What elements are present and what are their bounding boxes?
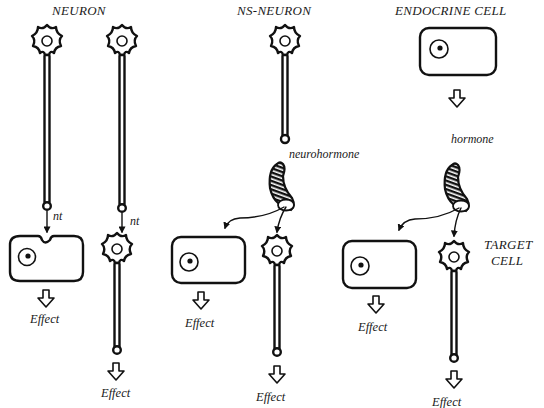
effect-label-5: Effect <box>357 320 388 334</box>
effect-arrow-3 <box>193 292 209 309</box>
effect-arrow-6 <box>446 371 462 388</box>
endocrine-cell <box>420 28 496 75</box>
signalling-diagram: NEURON NS-NEURON ENDOCRINE CELL nt Effec… <box>0 0 544 408</box>
target-cell-1 <box>10 236 83 281</box>
effect-label-1: Effect <box>29 312 60 326</box>
effect-label-2: Effect <box>100 386 131 400</box>
release-arrow-cell-2 <box>225 207 284 228</box>
ns-neuron <box>270 25 300 143</box>
heading-endocrine-cell: ENDOCRINE CELL <box>394 3 506 18</box>
gland-2 <box>270 163 294 211</box>
effect-arrow-5 <box>368 296 384 313</box>
target-neuron-3 <box>439 241 469 362</box>
effect-arrow-1 <box>38 290 54 307</box>
effect-arrow-2 <box>108 363 124 380</box>
target-neuron-2 <box>262 235 292 356</box>
neuron-1 <box>32 25 62 210</box>
target-cell-2 <box>172 237 245 283</box>
nt-label-1: nt <box>53 209 63 223</box>
nt-label-2: nt <box>130 214 140 228</box>
hormone-arrow <box>449 90 465 107</box>
effect-label-3: Effect <box>184 316 215 330</box>
effect-arrow-4 <box>269 366 285 383</box>
neurohormone-label: neurohormone <box>289 147 360 161</box>
target-cell-3 <box>343 241 416 288</box>
target-cell-label-line1: TARGET <box>484 237 533 252</box>
effect-label-4: Effect <box>255 390 286 404</box>
hormone-label: hormone <box>451 132 494 146</box>
heading-neuron: NEURON <box>51 3 107 18</box>
neuron-2 <box>107 25 137 212</box>
heading-ns-neuron: NS-NEURON <box>236 3 312 18</box>
effect-label-6: Effect <box>431 395 462 408</box>
release-arrow-cell-3 <box>399 208 459 230</box>
target-cell-label-line2: CELL <box>491 253 523 268</box>
target-neuron-1 <box>102 233 132 354</box>
gland-3 <box>445 164 469 212</box>
